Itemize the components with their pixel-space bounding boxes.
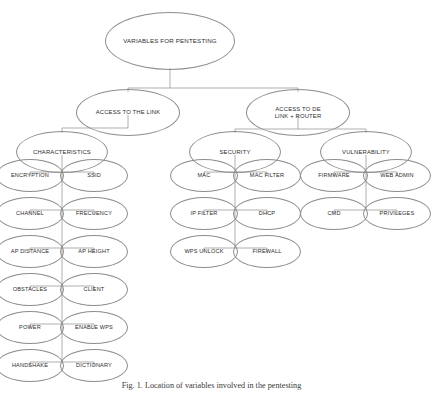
node-label: HANDSHAKE — [0, 362, 63, 368]
node-label: AP HEIGHT — [61, 248, 127, 254]
node-mac-filter[interactable]: MAC FILTER — [233, 159, 301, 192]
node-label: MAC — [171, 172, 237, 178]
node-label: VULNERABILITY — [321, 149, 411, 155]
node-label: FRECUENCY — [61, 210, 127, 216]
node-ssid[interactable]: SSID — [60, 159, 128, 192]
node-handshake[interactable]: HANDSHAKE — [0, 349, 64, 382]
node-access-to-de-link-router[interactable]: ACCESS TO DELINK + ROUTER — [246, 89, 350, 136]
node-label: DICTIONARY — [61, 362, 127, 368]
node-firewall[interactable]: FIREWALL — [233, 235, 301, 268]
node-label: SECURITY — [190, 149, 280, 155]
node-label: ENABLE WPS — [61, 324, 127, 330]
node-access-to-the-link[interactable]: ACCESS TO THE LINK — [76, 89, 180, 136]
node-label-line1: ACCESS TO DE — [275, 106, 320, 112]
node-label: FIREWALL — [234, 248, 300, 254]
node-label: WPS UNLOCK — [171, 248, 237, 254]
node-mac[interactable]: MAC — [170, 159, 238, 192]
node-wps-unlock[interactable]: WPS UNLOCK — [170, 235, 238, 268]
node-label: IP FILTER — [171, 210, 237, 216]
node-privileges[interactable]: PRIVILEGES — [363, 197, 431, 230]
node-label: CHARACTERISTICS — [17, 149, 107, 155]
node-web-admin[interactable]: WEB ADMIN — [363, 159, 431, 192]
node-label: ACCESS TO THE LINK — [77, 109, 179, 115]
node-label: POWER — [0, 324, 63, 330]
node-ip-filter[interactable]: IP FILTER — [170, 197, 238, 230]
node-label: WEB ADMIN — [364, 172, 430, 178]
node-dhcp[interactable]: DHCP — [233, 197, 301, 230]
node-channel[interactable]: CHANNEL — [0, 197, 64, 230]
node-label: ENCRYPTION — [0, 172, 63, 178]
node-frecuency[interactable]: FRECUENCY — [60, 197, 128, 230]
node-client[interactable]: CLIENT — [60, 273, 128, 306]
node-cmd[interactable]: CMD — [300, 197, 368, 230]
node-label: CMD — [301, 210, 367, 216]
node-ap-distance[interactable]: AP DISTANCE — [0, 235, 64, 268]
figure-caption: Fig. 1. Location of variables involved i… — [0, 381, 423, 395]
node-label: CHANNEL — [0, 210, 63, 216]
node-label-line2: LINK + ROUTER — [275, 113, 322, 119]
node-label: DHCP — [234, 210, 300, 216]
node-label: SSID — [61, 172, 127, 178]
node-enable-wps[interactable]: ENABLE WPS — [60, 311, 128, 344]
node-variables-for-pentesting[interactable]: VARIABLES FOR PENTESTING — [105, 12, 235, 70]
node-power[interactable]: POWER — [0, 311, 64, 344]
node-label: CLIENT — [61, 286, 127, 292]
node-label: MAC FILTER — [234, 172, 300, 178]
node-label: ACCESS TO DELINK + ROUTER — [247, 106, 349, 119]
node-label: PRIVILEGES — [364, 210, 430, 216]
node-obstacles[interactable]: OBSTACLES — [0, 273, 64, 306]
node-dictionary[interactable]: DICTIONARY — [60, 349, 128, 382]
node-encryption[interactable]: ENCRYPTION — [0, 159, 64, 192]
node-label: AP DISTANCE — [0, 248, 63, 254]
node-label: OBSTACLES — [0, 286, 63, 292]
node-label: VARIABLES FOR PENTESTING — [106, 38, 234, 45]
node-label: FIRMWARE — [301, 172, 367, 178]
node-firmware[interactable]: FIRMWARE — [300, 159, 368, 192]
node-ap-height[interactable]: AP HEIGHT — [60, 235, 128, 268]
